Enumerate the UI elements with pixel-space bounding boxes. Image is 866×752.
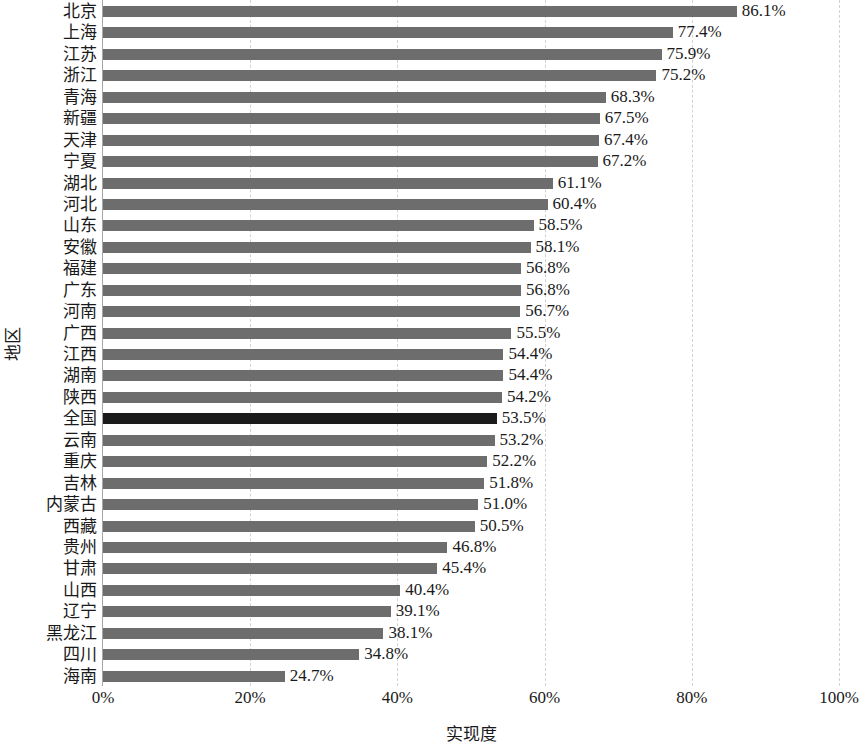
bar[interactable]	[103, 306, 520, 317]
category-label: 贵州	[63, 536, 97, 559]
bar[interactable]	[103, 542, 447, 553]
category-axis: 北京上海江苏浙江青海新疆天津宁夏湖北河北山东安徽福建广东河南广西江西湖南陕西全国…	[26, 0, 100, 686]
bar-value-label: 45.4%	[437, 557, 486, 580]
bar[interactable]	[103, 328, 511, 339]
bar[interactable]	[103, 49, 662, 60]
bar-row[interactable]: 56.7%	[103, 300, 839, 323]
bar-row[interactable]: 61.1%	[103, 172, 839, 195]
bar-value-label: 67.4%	[599, 129, 648, 152]
x-tick-label: 20%	[235, 688, 266, 708]
bar[interactable]	[103, 178, 553, 189]
category-label: 广西	[63, 322, 97, 345]
bar-value-label: 86.1%	[737, 0, 786, 23]
bar[interactable]	[103, 92, 606, 103]
bar-row[interactable]: 60.4%	[103, 193, 839, 216]
bar-row[interactable]: 86.1%	[103, 0, 839, 23]
bar[interactable]	[103, 392, 502, 403]
category-label: 青海	[63, 86, 97, 109]
bar-row[interactable]: 54.4%	[103, 364, 839, 387]
bar[interactable]	[103, 499, 478, 510]
category-label: 陕西	[63, 386, 97, 409]
bar-value-label: 58.1%	[531, 236, 580, 259]
bar[interactable]	[103, 478, 484, 489]
bar[interactable]	[103, 413, 497, 424]
bar-value-label: 67.5%	[600, 107, 649, 130]
x-tick-label: 80%	[676, 688, 707, 708]
bar[interactable]	[103, 521, 475, 532]
bar-row[interactable]: 24.7%	[103, 665, 839, 688]
x-tick-label: 60%	[529, 688, 560, 708]
bar-row[interactable]: 46.8%	[103, 536, 839, 559]
category-label: 河北	[63, 193, 97, 216]
category-label: 江西	[63, 343, 97, 366]
bar-row[interactable]: 53.2%	[103, 429, 839, 452]
bar[interactable]	[103, 349, 503, 360]
bar[interactable]	[103, 113, 600, 124]
bar-row[interactable]: 56.8%	[103, 279, 839, 302]
category-label: 山东	[63, 214, 97, 237]
category-label: 内蒙古	[46, 493, 97, 516]
bar-value-label: 60.4%	[548, 193, 597, 216]
bar-row[interactable]: 53.5%	[103, 407, 839, 430]
bar-row[interactable]: 75.2%	[103, 64, 839, 87]
bar-row[interactable]: 75.9%	[103, 43, 839, 66]
bar-row[interactable]: 51.0%	[103, 493, 839, 516]
bar-row[interactable]: 77.4%	[103, 21, 839, 44]
bar[interactable]	[103, 6, 737, 17]
bar[interactable]	[103, 585, 400, 596]
bar-row[interactable]: 39.1%	[103, 600, 839, 623]
bar[interactable]	[103, 70, 656, 81]
bar[interactable]	[103, 285, 521, 296]
category-label: 浙江	[63, 64, 97, 87]
bar[interactable]	[103, 628, 383, 639]
bar[interactable]	[103, 220, 534, 231]
x-tick-label: 40%	[382, 688, 413, 708]
bar[interactable]	[103, 456, 487, 467]
category-label: 湖北	[63, 172, 97, 195]
bar[interactable]	[103, 242, 531, 253]
bar-value-label: 46.8%	[447, 536, 496, 559]
bar-value-label: 56.7%	[520, 300, 569, 323]
bar-row[interactable]: 40.4%	[103, 579, 839, 602]
bar-row[interactable]: 55.5%	[103, 322, 839, 345]
bar-value-label: 68.3%	[606, 86, 655, 109]
bar-value-label: 24.7%	[285, 665, 334, 688]
bar-row[interactable]: 54.2%	[103, 386, 839, 409]
bar[interactable]	[103, 156, 598, 167]
bar-row[interactable]: 51.8%	[103, 472, 839, 495]
category-label: 四川	[63, 643, 97, 666]
category-label: 广东	[63, 279, 97, 302]
bar[interactable]	[103, 135, 599, 146]
bar-row[interactable]: 45.4%	[103, 557, 839, 580]
bar[interactable]	[103, 563, 437, 574]
bar[interactable]	[103, 606, 391, 617]
category-label: 河南	[63, 300, 97, 323]
bar-row[interactable]: 67.4%	[103, 129, 839, 152]
bar-row[interactable]: 58.5%	[103, 214, 839, 237]
bar[interactable]	[103, 370, 503, 381]
bar-row[interactable]: 58.1%	[103, 236, 839, 259]
category-label: 辽宁	[63, 600, 97, 623]
bar-row[interactable]: 67.2%	[103, 150, 839, 173]
plot-area: 86.1%77.4%75.9%75.2%68.3%67.5%67.4%67.2%…	[103, 0, 839, 686]
bar-row[interactable]: 38.1%	[103, 622, 839, 645]
bar-row[interactable]: 68.3%	[103, 86, 839, 109]
bar[interactable]	[103, 649, 359, 660]
bar[interactable]	[103, 671, 285, 682]
bar-row[interactable]: 50.5%	[103, 515, 839, 538]
bar-row[interactable]: 54.4%	[103, 343, 839, 366]
bar-row[interactable]: 52.2%	[103, 450, 839, 473]
bar[interactable]	[103, 263, 521, 274]
bar-row[interactable]: 67.5%	[103, 107, 839, 130]
bar-row[interactable]: 56.8%	[103, 257, 839, 280]
bar[interactable]	[103, 27, 673, 38]
category-label: 西藏	[63, 515, 97, 538]
category-label: 安徽	[63, 236, 97, 259]
category-label: 天津	[63, 129, 97, 152]
bar[interactable]	[103, 435, 495, 446]
bar[interactable]	[103, 199, 548, 210]
bar-value-label: 38.1%	[383, 622, 432, 645]
category-label: 黑龙江	[46, 622, 97, 645]
bar-row[interactable]: 34.8%	[103, 643, 839, 666]
bar-value-label: 53.2%	[495, 429, 544, 452]
